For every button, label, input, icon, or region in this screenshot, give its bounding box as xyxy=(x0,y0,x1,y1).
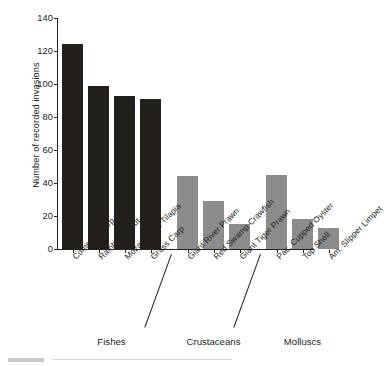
y-tick-mark xyxy=(54,183,57,184)
group-label: Fishes xyxy=(97,337,125,347)
caption-line-2 xyxy=(52,359,232,360)
y-tick-label: 120 xyxy=(37,46,53,55)
x-axis-line xyxy=(57,249,314,250)
bar xyxy=(177,176,198,249)
group-label: Crustaceans xyxy=(187,337,241,347)
y-tick-mark xyxy=(54,117,57,118)
y-tick-mark xyxy=(54,18,57,19)
y-tick-mark xyxy=(54,150,57,151)
y-tick-mark xyxy=(54,216,57,217)
caption-line-1 xyxy=(8,358,44,362)
group-separator-line xyxy=(144,254,172,328)
group-label: Molluscs xyxy=(284,337,321,347)
plot-area: 020406080100120140 Common CarpRainbow Tr… xyxy=(57,18,314,250)
y-tick-label: 80 xyxy=(43,112,53,121)
y-tick-mark xyxy=(54,51,57,52)
y-tick-label: 60 xyxy=(43,145,53,154)
y-tick-mark xyxy=(54,84,57,85)
y-tick-label: 100 xyxy=(37,79,53,88)
caption-stub xyxy=(8,358,208,364)
y-tick-mark xyxy=(54,249,57,250)
y-tick-label: 20 xyxy=(43,211,53,220)
y-tick-label: 140 xyxy=(37,13,53,22)
y-tick-label: 0 xyxy=(48,244,53,253)
y-axis-line xyxy=(57,18,58,250)
group-separator-line xyxy=(233,254,261,328)
bar xyxy=(62,44,83,249)
y-tick-label: 40 xyxy=(43,178,53,187)
